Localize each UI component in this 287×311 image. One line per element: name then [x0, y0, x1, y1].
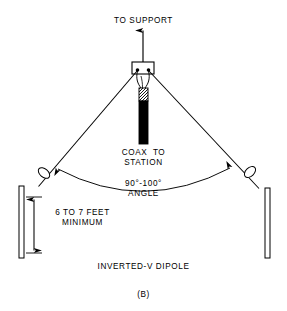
figure-title: INVERTED-V DIPOLE: [0, 262, 287, 272]
coax-cable: [139, 88, 148, 144]
label-height-minimum: 6 TO 7 FEET MINIMUM: [0, 208, 165, 228]
left-antenna-leg: [39, 71, 138, 187]
right-antenna-leg: [149, 71, 259, 189]
panel-letter: (B): [0, 290, 287, 300]
label-coax-to-station: COAX TO STATION: [0, 148, 287, 168]
label-angle: 90°-100° ANGLE: [0, 179, 287, 199]
inverted-v-dipole-figure: TO SUPPORT COAX TO STATION 90°-100° ANGL…: [0, 0, 287, 311]
label-to-support: TO SUPPORT: [0, 16, 287, 26]
